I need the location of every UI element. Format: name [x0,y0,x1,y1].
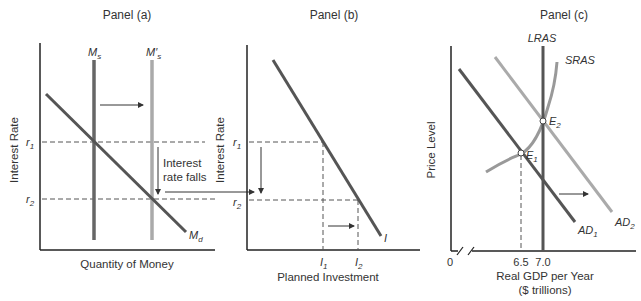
e1-point [518,150,524,156]
interest-note-line1: Interest [163,157,202,169]
interest-note-line2: rate falls [163,171,207,183]
panel-a-r1-label: r1 [26,136,34,151]
panel-b-r2-label: r2 [233,196,242,211]
i1-tick-label: I1 [320,256,328,271]
i2-tick-label: I2 [355,256,363,271]
panel-c-y-label: Price Level [425,122,437,179]
investment-label: I [384,232,387,244]
panel-c-x-label: Real GDP per Year [496,270,594,282]
tick-7-0: 7.0 [535,256,550,268]
panel-b: Panel (b) Interest Rate Planned Investme… [214,8,420,283]
ad1-label: AD1 [577,224,598,239]
panel-c-title: Panel (c) [540,8,588,22]
panel-c: Panel (c) Price Level Real GDP per Year … [425,8,636,296]
panel-a-title: Panel (a) [103,8,152,22]
tick-6-5: 6.5 [513,256,528,268]
panel-b-x-label: Planned Investment [277,271,379,283]
chart-figure: Panel (a) Interest Rate Quantity of Mone… [0,0,641,301]
panel-b-r1-label: r1 [233,136,241,151]
zero-tick: 0 [447,256,453,268]
sras-label: SRAS [565,54,596,66]
investment-curve [273,60,381,236]
ms-prime-label: M′s [146,46,161,61]
panel-a-x-label: Quantity of Money [80,258,174,270]
ad1-curve [459,69,575,222]
panel-b-y-label: Interest Rate [214,117,226,183]
e2-point [540,118,546,124]
lras-label: LRAS [528,32,557,44]
panel-c-x-unit: ($ trillions) [518,284,571,296]
panel-a-y-label: Interest Rate [8,117,20,183]
ms-label: Ms [88,46,101,61]
md-label: Md [189,229,203,244]
panel-b-title: Panel (b) [310,8,359,22]
e2-label: E2 [549,115,561,130]
ad2-label: AD2 [614,216,635,231]
panel-a-r2-label: r2 [26,193,35,208]
